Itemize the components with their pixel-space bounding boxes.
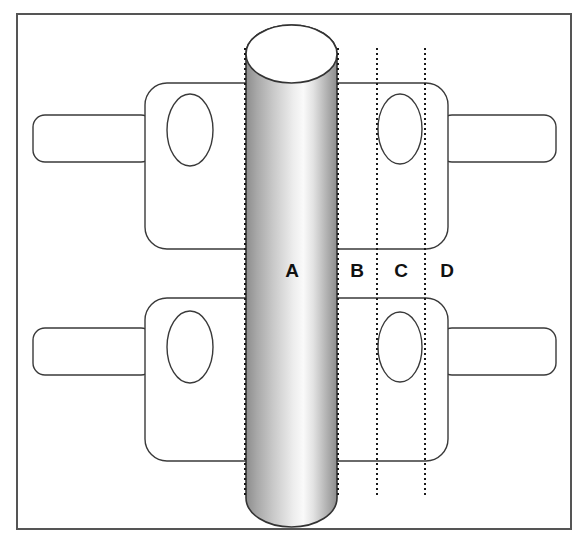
cylinder-top-cap (246, 25, 337, 83)
block-lower-left-hole (167, 311, 213, 383)
block-upper-left-tab (33, 115, 153, 162)
block-lower-left-tab (33, 328, 153, 375)
block-lower-right-hole (378, 312, 422, 382)
block-upper-left-hole (167, 94, 213, 166)
block-upper-right-hole (378, 94, 422, 164)
block-upper-right-tab (440, 115, 556, 162)
diagram-canvas: ABCD (0, 0, 588, 543)
block-lower-right-tab (440, 328, 556, 375)
zone-label-b: B (350, 260, 364, 281)
zone-label-d: D (440, 260, 454, 281)
zone-label-a: A (285, 260, 299, 281)
diagram-svg: ABCD (0, 0, 588, 543)
zone-label-c: C (394, 260, 408, 281)
